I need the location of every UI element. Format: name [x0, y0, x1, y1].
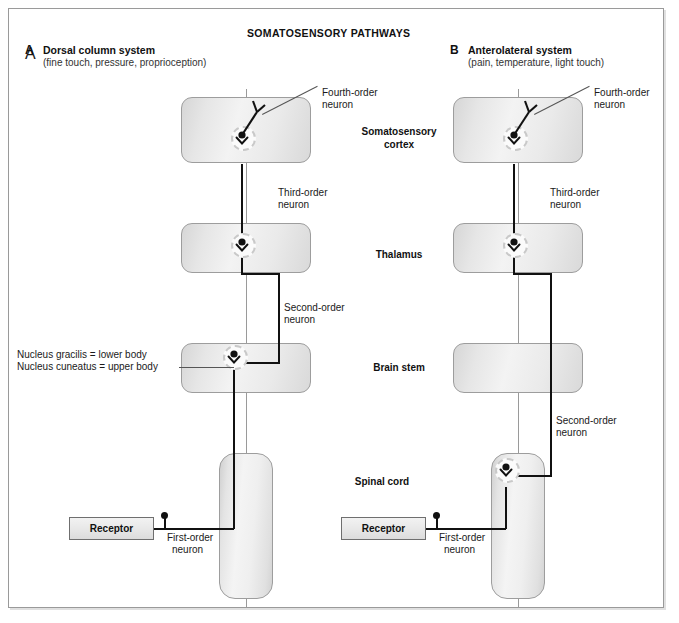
- panel-a-letter-glyph: A: [25, 43, 34, 57]
- receptor-label-b: Receptor: [362, 523, 405, 534]
- panel-b-letter-glyph: B: [450, 43, 459, 57]
- tract-second-order-turn-b: [513, 273, 552, 275]
- callout-first-order-a-line2: neuron: [172, 544, 203, 556]
- label-spinal-cord: Spinal cord: [337, 476, 427, 488]
- tract-second-order-b: [550, 274, 552, 477]
- panel-a-subtitle: (fine touch, pressure, proprioception): [43, 57, 206, 68]
- receptor-box-b: Receptor: [341, 517, 426, 540]
- receptor-box-a: Receptor: [69, 517, 154, 540]
- label-thalamus: Thalamus: [354, 249, 444, 261]
- first-order-stalk-b: [436, 515, 438, 529]
- callout-second-order-b-line1: Second-order: [556, 415, 617, 427]
- panel-b-title: Anterolateral system: [468, 44, 572, 56]
- callout-first-order-b-line2: neuron: [444, 544, 475, 556]
- callout-third-order-b-line1: Third-order: [550, 187, 599, 199]
- callout-second-order-a-line2: neuron: [284, 314, 315, 326]
- callout-fourth-order-b-line1: Fourth-order: [594, 87, 650, 99]
- callout-third-order-a-line1: Third-order: [278, 187, 327, 199]
- label-somatosensory-cortex-line1: Somatosensory: [354, 126, 444, 138]
- figure-title: SOMATOSENSORY PATHWAYS: [247, 27, 410, 39]
- label-brain-stem: Brain stem: [354, 362, 444, 374]
- panel-a-title: Dorsal column system: [43, 44, 155, 56]
- tract-first-order-entry-b: [505, 487, 507, 529]
- label-somatosensory-cortex-line2: cortex: [354, 139, 444, 151]
- first-order-stalk-a: [164, 515, 166, 529]
- tract-first-order-a: [233, 362, 235, 529]
- figure-frame: SOMATOSENSORY PATHWAYS A A Dorsal column…: [8, 8, 664, 608]
- callout-second-order-a-line1: Second-order: [284, 302, 345, 314]
- callout-fourth-order-a-line2: neuron: [322, 99, 353, 111]
- callout-first-order-a-line1: First-order: [167, 532, 213, 544]
- block-brainstem-b: [453, 343, 583, 393]
- callout-fourth-order-a-line1: Fourth-order: [322, 87, 378, 99]
- callout-third-order-b-line2: neuron: [550, 199, 581, 211]
- panel-b-subtitle: (pain, temperature, light touch): [468, 57, 604, 68]
- block-spinalcord-a: [219, 453, 273, 599]
- callout-third-order-a-line2: neuron: [278, 199, 309, 211]
- callout-fourth-order-b-line2: neuron: [594, 99, 625, 111]
- callout-first-order-b-line1: First-order: [439, 532, 485, 544]
- annotation-nucleus-gracilis: Nucleus gracilis = lower body: [17, 349, 147, 361]
- callout-second-order-b-line2: neuron: [556, 427, 587, 439]
- leader-nucleus-annotation: [179, 367, 234, 368]
- annotation-nucleus-cuneatus: Nucleus cuneatus = upper body: [17, 361, 158, 373]
- tract-second-order-turn-a: [241, 273, 280, 275]
- tract-second-order-a: [278, 274, 280, 364]
- receptor-label-a: Receptor: [90, 523, 133, 534]
